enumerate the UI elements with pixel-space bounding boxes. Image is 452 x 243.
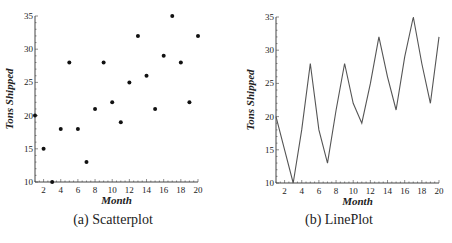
x-tick-label: 14 [142,185,152,195]
x-tick-label: 18 [176,185,186,195]
y-tick-label: 25 [24,77,34,87]
y-tick-label: 10 [24,177,34,187]
x-tick-label: 2 [282,186,287,196]
data-point [102,60,106,64]
scatterplot-chart: 1015202530352468101214161820MonthTons Sh… [0,0,226,210]
y-tick-label: 25 [265,78,275,88]
y-tick-label: 30 [24,44,34,54]
data-point [93,107,97,111]
data-point [42,147,46,151]
x-tick-label: 6 [76,185,81,195]
y-tick-label: 20 [24,111,34,121]
data-point [145,74,149,78]
x-axis-title: Month [341,195,373,207]
data-point [84,160,88,164]
data-point [179,60,183,64]
y-tick-label: 15 [24,144,34,154]
y-tick-label: 15 [265,145,275,155]
x-tick-label: 4 [58,185,63,195]
y-tick-label: 10 [265,178,275,188]
y-tick-label: 30 [265,45,275,55]
x-tick-label: 6 [317,186,322,196]
data-point [153,107,157,111]
data-point [119,120,123,124]
x-axis-title: Month [100,194,132,206]
data-series [33,14,200,184]
axes: 1015202530352468101214161820MonthTons Sh… [3,11,203,206]
lineplot-chart: 1015202530352468101214161820MonthTons Sh… [226,0,452,210]
y-tick-label: 35 [24,11,34,21]
x-tick-label: 8 [93,185,98,195]
data-point [67,60,71,64]
data-series [276,17,439,183]
y-axis-title: Tons Shipped [3,68,15,130]
x-tick-label: 18 [417,186,427,196]
scatterplot-panel: 1015202530352468101214161820MonthTons Sh… [0,0,226,243]
y-axis-title: Tons Shipped [244,69,256,131]
y-tick-label: 35 [265,12,275,22]
data-point [187,100,191,104]
data-point [136,34,140,38]
data-point [170,14,174,18]
scatterplot-caption: (a) Scatterplot [0,212,226,228]
data-point [127,80,131,84]
y-tick-label: 20 [265,112,275,122]
x-tick-label: 8 [334,186,339,196]
data-point [76,127,80,131]
data-line [276,17,439,183]
x-tick-label: 16 [400,186,410,196]
x-tick-label: 4 [299,186,304,196]
x-tick-label: 14 [383,186,393,196]
lineplot-caption: (b) LinePlot [226,212,452,228]
data-point [33,114,37,118]
data-point [196,34,200,38]
data-point [59,127,63,131]
lineplot-panel: 1015202530352468101214161820MonthTons Sh… [226,0,452,243]
x-tick-label: 20 [435,186,445,196]
data-point [50,180,54,184]
x-tick-label: 16 [159,185,169,195]
data-point [162,54,166,58]
x-tick-label: 20 [194,185,204,195]
axes: 1015202530352468101214161820MonthTons Sh… [244,12,444,207]
data-point [110,100,114,104]
x-tick-label: 2 [41,185,46,195]
